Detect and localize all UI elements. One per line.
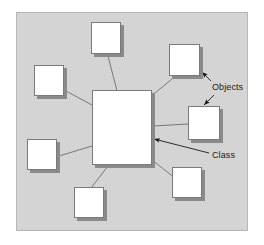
class-node[interactable]	[92, 90, 152, 165]
object-node-bottom[interactable]	[74, 187, 104, 218]
object-node-left-upper[interactable]	[34, 65, 64, 96]
object-node-left-lower[interactable]	[27, 139, 57, 170]
object-node-right-middle[interactable]	[188, 106, 220, 140]
object-node-top-right[interactable]	[169, 44, 200, 76]
diagram-screenshot: ObjectsClass	[0, 0, 264, 245]
object-node-top[interactable]	[91, 22, 121, 54]
object-node-bottom-right[interactable]	[172, 167, 202, 198]
objects-annotation-text: Objects	[212, 82, 243, 93]
class-annotation-text: Class	[212, 150, 235, 161]
